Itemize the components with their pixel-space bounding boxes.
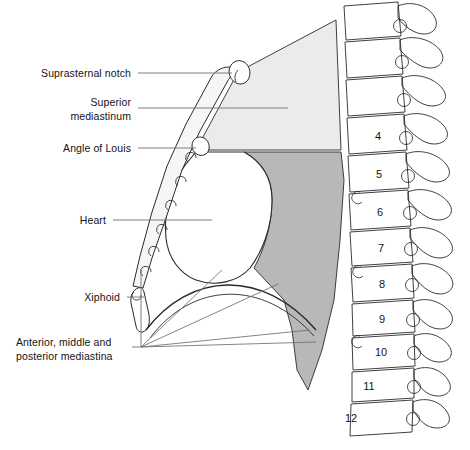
vertebra-number-8: 8 bbox=[379, 278, 385, 290]
vertebra-number-5: 5 bbox=[376, 168, 382, 180]
xiphoid-process bbox=[131, 288, 150, 332]
label-xiphoid: Xiphoid bbox=[84, 291, 120, 303]
suprasternal-notch-marker bbox=[229, 61, 250, 84]
thoracic-vertebral-column bbox=[344, 2, 453, 436]
vertebra-number-10: 10 bbox=[375, 346, 387, 358]
vertebra-number-4: 4 bbox=[375, 130, 381, 142]
label-suprasternal-notch: Suprasternal notch bbox=[41, 67, 131, 79]
label-mediastina-line1: Anterior, middle and bbox=[16, 336, 111, 348]
angle-of-louis-marker bbox=[192, 137, 209, 155]
label-mediastina-line2: posterior mediastina bbox=[16, 350, 113, 362]
vertebra-number-11: 11 bbox=[363, 380, 374, 392]
thorax-sagittal-diagram: 4 5 6 7 8 9 10 11 12 Suprasternal notch … bbox=[0, 0, 470, 450]
vertebra-number-6: 6 bbox=[377, 206, 383, 218]
vertebra-number-7: 7 bbox=[378, 242, 384, 254]
callout-labels: Suprasternal notch Superior mediastinum … bbox=[16, 67, 131, 362]
label-heart: Heart bbox=[80, 214, 106, 226]
vertebra-number-9: 9 bbox=[379, 313, 385, 325]
label-superior-mediastinum-line2: mediastinum bbox=[70, 110, 131, 122]
label-angle-of-louis: Angle of Louis bbox=[63, 142, 131, 154]
vertebra-number-12: 12 bbox=[345, 412, 357, 424]
label-superior-mediastinum-line1: Superior bbox=[91, 96, 132, 108]
